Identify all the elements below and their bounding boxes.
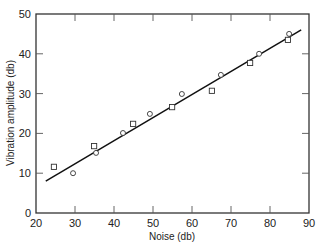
square-marker bbox=[92, 144, 97, 149]
x-tick-label: 20 bbox=[30, 217, 42, 229]
square-marker bbox=[248, 60, 253, 65]
y-tick-label: 0 bbox=[25, 207, 31, 219]
x-tick-label: 40 bbox=[108, 217, 120, 229]
data-points bbox=[51, 31, 291, 175]
scatter-chart: 2030405060708090 01020304050 Noise (db) … bbox=[0, 0, 321, 248]
x-tick-label: 30 bbox=[69, 217, 81, 229]
circle-marker bbox=[179, 91, 184, 96]
y-axis: 01020304050 bbox=[19, 8, 309, 219]
x-tick-label: 50 bbox=[147, 217, 159, 229]
circle-marker bbox=[71, 171, 76, 176]
circle-marker bbox=[218, 72, 223, 77]
y-tick-label: 40 bbox=[19, 48, 31, 60]
x-tick-label: 70 bbox=[225, 217, 237, 229]
plot-frame bbox=[36, 14, 309, 213]
square-marker bbox=[285, 37, 290, 42]
circle-marker bbox=[287, 31, 292, 36]
y-tick-label: 20 bbox=[19, 127, 31, 139]
square-marker bbox=[131, 121, 136, 126]
plot-border bbox=[36, 14, 309, 213]
x-tick-label: 60 bbox=[186, 217, 198, 229]
circle-marker bbox=[94, 150, 99, 155]
circle-marker bbox=[120, 131, 125, 136]
square-marker bbox=[51, 164, 56, 169]
x-axis-title: Noise (db) bbox=[149, 231, 195, 242]
x-tick-label: 90 bbox=[303, 217, 315, 229]
y-tick-label: 50 bbox=[19, 8, 31, 20]
y-axis-title: Vibration amplitude (db) bbox=[5, 60, 16, 166]
circle-marker bbox=[147, 111, 152, 116]
square-marker bbox=[170, 105, 175, 110]
y-tick-label: 10 bbox=[19, 167, 31, 179]
y-tick-label: 30 bbox=[19, 88, 31, 100]
circle-marker bbox=[257, 51, 262, 56]
square-marker bbox=[209, 88, 214, 93]
x-tick-label: 80 bbox=[264, 217, 276, 229]
